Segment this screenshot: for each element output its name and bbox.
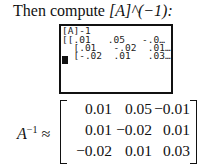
intro-expression: [A]^(−1): — [109, 2, 173, 19]
matrix-label: A−1 ≈ — [17, 124, 50, 143]
matrix-cell: −0.01 — [144, 100, 190, 118]
matrix-cell: 0.03 — [144, 142, 190, 160]
cursor-block — [62, 56, 68, 64]
matrix-cell: 0.01 — [144, 121, 190, 139]
matrix-exponent: −1 — [27, 124, 38, 135]
approx-sign: ≈ — [41, 125, 50, 142]
intro-prefix: Then compute — [13, 2, 109, 19]
calculator-screen: [A]-1 [[.01 .05 -.0… [.01 -.02 .01… [-.0… — [59, 24, 173, 94]
intro-text: Then compute [A]^(−1): — [13, 2, 173, 20]
screen-line-row-3: [-.02 .01 .03… — [62, 51, 171, 61]
right-bracket — [190, 100, 197, 164]
inverse-matrix-result: A−1 ≈ 0.01 0.05 −0.01 0.01 −0.02 0.01 −0… — [0, 97, 205, 168]
matrix-name: A — [17, 125, 27, 142]
